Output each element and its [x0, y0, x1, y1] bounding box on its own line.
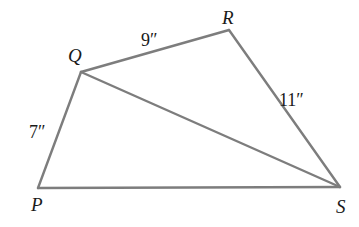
- vertex-labels: PQRS: [30, 7, 346, 217]
- vertex-label-r: R: [221, 7, 234, 28]
- length-label-pq: 7″: [29, 122, 46, 142]
- length-label-qr: 9″: [141, 30, 158, 50]
- vertex-label-q: Q: [68, 45, 82, 66]
- diagram-canvas: PQRS 7″9″11″: [0, 0, 359, 227]
- length-label-rs: 11″: [279, 90, 304, 110]
- quadrilateral-diagram: PQRS 7″9″11″: [0, 0, 359, 227]
- segment-ps: [38, 187, 340, 188]
- vertex-label-p: P: [30, 194, 43, 215]
- vertex-label-s: S: [336, 196, 346, 217]
